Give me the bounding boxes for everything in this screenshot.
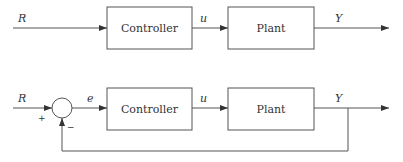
input-label: R <box>17 12 26 25</box>
summing-junction <box>52 98 72 118</box>
u-label: u <box>200 12 207 25</box>
open-loop-diagram: R Controller u Plant Y <box>13 7 389 49</box>
error-label: e <box>87 92 94 105</box>
input-label: R <box>17 92 26 105</box>
u-label: u <box>200 92 207 105</box>
minus-sign: − <box>67 122 75 132</box>
plant-label: Plant <box>257 103 287 116</box>
plus-sign: + <box>38 113 46 123</box>
plant-label: Plant <box>257 22 287 35</box>
controller-label: Controller <box>121 22 179 35</box>
output-label: Y <box>335 92 344 105</box>
controller-label: Controller <box>121 103 179 116</box>
output-label: Y <box>335 12 344 25</box>
block-diagrams: R Controller u Plant Y R + − e Controlle… <box>0 0 403 162</box>
closed-loop-diagram: R + − e Controller u Plant Y <box>13 88 389 151</box>
